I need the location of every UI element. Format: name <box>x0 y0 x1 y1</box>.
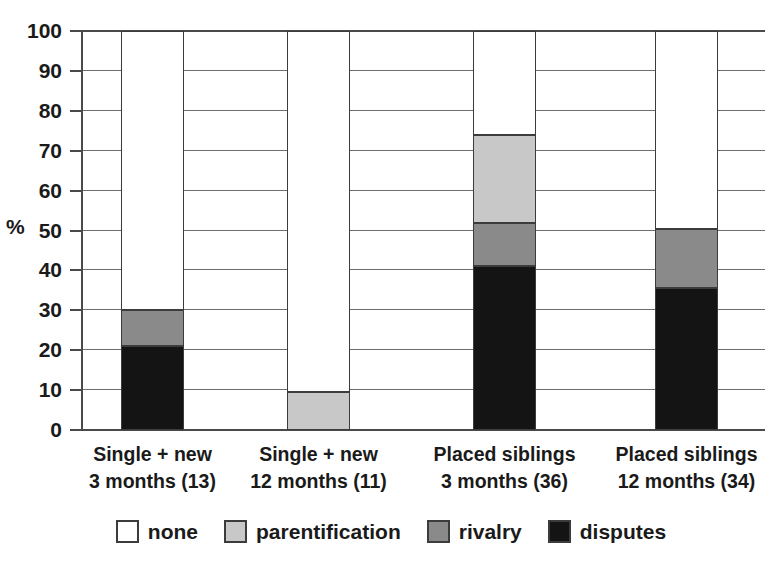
x-axis-label-line1: Single + new <box>219 441 419 468</box>
legend-item-disputes[interactable]: disputes <box>548 520 666 543</box>
bar-group <box>473 31 536 430</box>
legend-swatch-none <box>116 520 139 543</box>
y-tick-label-40: 40 <box>16 259 62 280</box>
y-tick-label-60: 60 <box>16 180 62 201</box>
bar-segment-rivalry <box>473 223 536 267</box>
legend-item-parentification[interactable]: parentification <box>224 520 401 543</box>
y-tick-label-50: 50 <box>16 220 62 241</box>
bar-segment-disputes <box>121 346 184 430</box>
x-axis-label: Single + new12 months (11) <box>219 441 419 495</box>
y-tick-label-80: 80 <box>16 100 62 121</box>
legend-swatch-parentification <box>224 520 247 543</box>
bar-segment-none <box>655 31 718 229</box>
bar-segment-disputes <box>473 266 536 430</box>
y-tick-label-30: 30 <box>16 299 62 320</box>
bar-segment-none <box>287 31 350 392</box>
chart-legend: noneparentificationrivalrydisputes <box>0 520 782 543</box>
legend-item-rivalry[interactable]: rivalry <box>427 520 522 543</box>
bar-segment-parentification <box>287 392 350 430</box>
x-axis-label: Placed siblings3 months (36) <box>405 441 605 495</box>
legend-swatch-rivalry <box>427 520 450 543</box>
legend-label-disputes: disputes <box>580 521 666 542</box>
y-tick-label-70: 70 <box>16 140 62 161</box>
x-axis-label-line2: 12 months (11) <box>219 468 419 495</box>
y-tick-label-90: 90 <box>16 60 62 81</box>
y-tick-label-20: 20 <box>16 339 62 360</box>
x-axis-label: Placed siblings12 months (34) <box>587 441 782 495</box>
legend-label-rivalry: rivalry <box>459 521 522 542</box>
x-axis-label-line2: 3 months (36) <box>405 468 605 495</box>
bar-segment-parentification <box>473 135 536 223</box>
stacked-bar-chart: % 1009080706050403020100 Single + new3 m… <box>0 0 782 583</box>
y-tick-label-10: 10 <box>16 379 62 400</box>
legend-swatch-disputes <box>548 520 571 543</box>
legend-item-none[interactable]: none <box>116 520 198 543</box>
bar-segment-rivalry <box>655 229 718 289</box>
y-axis-line <box>81 30 83 431</box>
bar-segment-disputes <box>655 288 718 430</box>
bar-group <box>121 31 184 430</box>
y-tick-label-100: 100 <box>16 20 62 41</box>
x-axis-label-line2: 12 months (34) <box>587 468 782 495</box>
y-tick-label-0: 0 <box>16 419 62 440</box>
bar-segment-none <box>473 31 536 135</box>
x-axis-label-line1: Placed siblings <box>405 441 605 468</box>
x-axis-label-line1: Placed siblings <box>587 441 782 468</box>
bar-segment-rivalry <box>121 310 184 346</box>
legend-label-parentification: parentification <box>256 521 401 542</box>
bar-segment-none <box>121 31 184 310</box>
bar-group <box>655 31 718 430</box>
legend-label-none: none <box>148 521 198 542</box>
bar-group <box>287 31 350 430</box>
